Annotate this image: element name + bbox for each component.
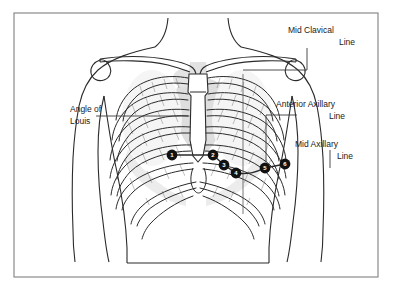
electrode-marker-6[interactable]: 6 bbox=[280, 159, 291, 170]
electrode-marker-2[interactable]: 2 bbox=[208, 150, 219, 161]
anterior-axillary-label-line1: Anterior Axillary bbox=[276, 99, 336, 109]
mid-clavicular-label-line2: Line bbox=[339, 37, 355, 47]
angle-of-louis-label-line1: Angle of bbox=[70, 104, 102, 114]
diagram-canvas: Mid Clavical Line Anterior Axillary Line… bbox=[0, 0, 395, 291]
anterior-axillary-label-line2: Line bbox=[329, 111, 345, 121]
electrode-marker-1[interactable]: 1 bbox=[167, 150, 178, 161]
electrode-marker-3[interactable]: 3 bbox=[219, 160, 230, 171]
mid-axillary-label-line1: Mid Axillary bbox=[295, 139, 339, 149]
electrode-marker-5[interactable]: 5 bbox=[260, 163, 271, 174]
mid-clavicular-label-line1: Mid Clavical bbox=[288, 25, 334, 35]
mid-axillary-label-line2: Line bbox=[337, 151, 353, 161]
electrode-marker-4[interactable]: 4 bbox=[231, 168, 242, 179]
lung-shadow-right bbox=[212, 70, 272, 166]
anatomical-figure: Mid Clavical Line Anterior Axillary Line… bbox=[0, 0, 395, 291]
angle-of-louis-label-line2: Louis bbox=[70, 116, 90, 126]
